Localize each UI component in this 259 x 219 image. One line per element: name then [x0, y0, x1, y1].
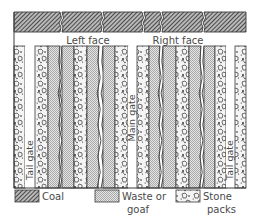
- waste-goaf-strip: [103, 46, 115, 188]
- waste-goaf-strip: [163, 46, 176, 188]
- coal-block: [102, 12, 144, 32]
- coal-seam: [14, 12, 246, 32]
- coal-block: [203, 12, 246, 32]
- legend-stone-label-line1: Stone: [203, 191, 232, 202]
- stone-pack-strip: [137, 46, 149, 188]
- waste-goaf-strip: [48, 46, 60, 188]
- stone-pack-strip: [235, 46, 246, 188]
- waste-goaf-strip: [204, 46, 215, 188]
- legend-item-stone: Stone packs: [176, 190, 236, 215]
- stone-pack-strip: [74, 46, 87, 188]
- main-gate-label: Main gate: [126, 94, 137, 141]
- stone-pack-strip: [35, 46, 48, 188]
- left-face-label: Left face: [66, 35, 109, 46]
- longwall-diagram: Left face Right face Tail gate Main gate…: [0, 0, 259, 219]
- legend-item-coal: Coal: [15, 190, 64, 202]
- waste-goaf-strip: [149, 46, 160, 188]
- right-face-label: Right face: [153, 35, 204, 46]
- coal-block: [143, 12, 162, 32]
- coal-block: [14, 12, 62, 32]
- legend: Coal Waste or goaf Stone packs: [15, 190, 236, 215]
- coal-block: [161, 12, 204, 32]
- legend-stone-label-line2: packs: [207, 204, 236, 215]
- waste-swatch: [95, 190, 119, 202]
- stone-pack-strip: [176, 46, 189, 188]
- stone-swatch: [176, 190, 200, 202]
- waste-goaf-strip: [87, 46, 99, 188]
- waste-goaf-strip: [189, 46, 201, 188]
- legend-waste-label-line2: goaf: [127, 204, 150, 215]
- tail-gate-right-label: Tail gate: [224, 140, 235, 181]
- tail-gate-left-label: Tail gate: [24, 140, 35, 181]
- waste-goaf-strip: [62, 46, 74, 188]
- legend-waste-label-line1: Waste or: [122, 191, 167, 202]
- legend-coal-label: Coal: [42, 191, 64, 202]
- coal-block: [61, 12, 103, 32]
- legend-item-waste: Waste or goaf: [95, 190, 167, 215]
- coal-swatch: [15, 190, 39, 202]
